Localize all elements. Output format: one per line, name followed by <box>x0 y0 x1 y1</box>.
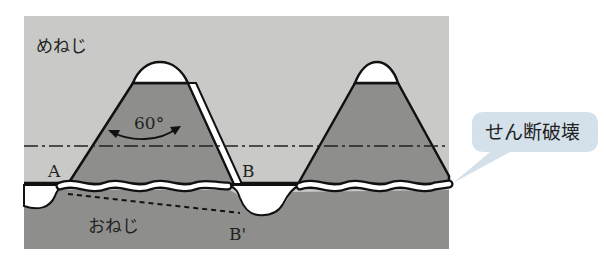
thread-shear-diagram: めねじ おねじ 60° A B B' せん断破壊 <box>0 0 606 261</box>
label-point-b-prime: B' <box>229 224 246 244</box>
label-angle: 60° <box>134 113 164 133</box>
label-female-thread: めねじ <box>36 36 87 56</box>
callout-text: せん断破壊 <box>485 121 580 143</box>
label-point-a: A <box>47 161 61 181</box>
label-point-b: B <box>242 161 255 181</box>
label-male-thread: おねじ <box>88 216 139 236</box>
